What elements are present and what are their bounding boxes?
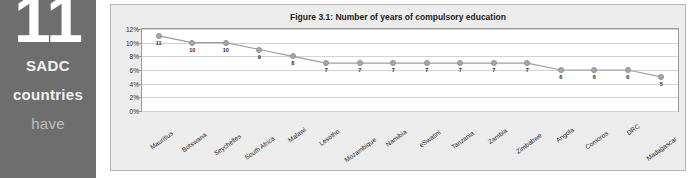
data-point-label: 7 xyxy=(325,67,328,73)
data-point-label: 7 xyxy=(425,67,428,73)
data-point xyxy=(591,67,597,73)
y-tick-label: 10% xyxy=(126,39,139,46)
y-tick-label: 12% xyxy=(126,26,139,33)
x-axis-label: Zambia xyxy=(486,127,508,145)
chart-title: Figure 3.1: Number of years of compulsor… xyxy=(111,12,685,22)
y-tick-label: 4% xyxy=(130,80,139,87)
data-point xyxy=(424,60,430,66)
data-point-label: 10 xyxy=(223,47,229,53)
x-axis-label: Lesotho xyxy=(318,128,341,147)
data-point-label: 7 xyxy=(392,67,395,73)
data-point xyxy=(491,60,497,66)
x-axis-label: Angola xyxy=(554,126,574,144)
data-point xyxy=(256,47,262,53)
x-axis-label: Tanzania xyxy=(450,129,475,150)
x-axis-label: Comoros xyxy=(584,130,609,151)
gridline xyxy=(142,111,678,112)
x-axis-label: South Africa xyxy=(244,135,276,161)
data-point-label: 7 xyxy=(459,67,462,73)
data-point-label: 7 xyxy=(526,67,529,73)
data-point-label: 9 xyxy=(258,54,261,60)
x-axis-label: DRC xyxy=(625,122,641,136)
callout-line-have: have xyxy=(31,115,65,132)
callout-line-sadc: SADC xyxy=(26,57,70,74)
data-point xyxy=(357,60,363,66)
data-point-label: 7 xyxy=(492,67,495,73)
data-point-label: 6 xyxy=(626,74,629,80)
data-point-label: 10 xyxy=(189,47,195,53)
x-axis-label: Zimbabwe xyxy=(515,132,543,155)
data-point xyxy=(156,33,162,39)
data-point xyxy=(658,74,664,80)
data-point xyxy=(223,40,229,46)
data-point xyxy=(390,60,396,66)
data-point-label: 6 xyxy=(593,74,596,80)
data-point-label: 5 xyxy=(660,81,663,87)
x-axis-label: Namibia xyxy=(385,128,408,148)
data-point-label: 8 xyxy=(291,60,294,66)
x-axis-label: Malawi xyxy=(286,126,306,144)
data-point xyxy=(558,67,564,73)
x-axis-label: Mozambique xyxy=(343,136,377,164)
data-point xyxy=(189,40,195,46)
plot-area: 12%10%8%6%4%2%0% 1110109877777776665 xyxy=(141,28,679,112)
y-tick-label: 6% xyxy=(130,67,139,74)
figure-container: Figure 3.1: Number of years of compulsor… xyxy=(110,4,686,171)
data-point-label: 11 xyxy=(156,40,162,46)
data-point xyxy=(524,60,530,66)
y-tick-label: 2% xyxy=(130,94,139,101)
data-point-label: 7 xyxy=(358,67,361,73)
x-axis-label: eSwatini xyxy=(418,128,442,148)
callout-line-countries: countries xyxy=(13,86,83,103)
data-point xyxy=(625,67,631,73)
x-axis-label: Botswana xyxy=(181,131,208,153)
y-tick-label: 0% xyxy=(130,108,139,115)
callout-panel: 11 SADC countries have xyxy=(0,0,96,178)
callout-number: 11 xyxy=(14,0,82,48)
y-tick-label: 8% xyxy=(130,53,139,60)
data-point xyxy=(290,53,296,59)
x-axis-label: Madagascar xyxy=(645,135,678,162)
x-axis-label: Mauritius xyxy=(148,130,173,151)
data-point xyxy=(457,60,463,66)
data-point xyxy=(323,60,329,66)
data-point-label: 6 xyxy=(559,74,562,80)
y-tick-mark xyxy=(139,111,142,112)
x-axis-label: Seychelles xyxy=(212,132,242,156)
